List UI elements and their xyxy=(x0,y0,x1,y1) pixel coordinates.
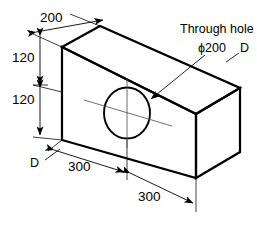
section-label-right-group: D xyxy=(226,41,249,62)
hole-centerline-axis xyxy=(84,100,172,126)
block-top-face xyxy=(62,26,240,114)
section-label-right: D xyxy=(240,41,249,55)
through-hole-note: Through hole xyxy=(180,22,254,36)
block-right-face xyxy=(196,88,240,178)
dimension-120-upper-label: 120 xyxy=(12,50,35,65)
isometric-block-drawing: 200 120 120 Through hole ϕ200 D xyxy=(0,0,257,226)
section-label-left-group: D xyxy=(30,149,60,170)
hole-diameter-label: ϕ200 xyxy=(198,41,226,55)
dimension-300-right: 300 xyxy=(130,173,193,204)
dimension-300-left-label: 300 xyxy=(68,159,91,174)
through-hole xyxy=(84,78,172,148)
dimension-200-label: 200 xyxy=(40,10,63,25)
section-label-left: D xyxy=(30,156,39,170)
dimension-120-lower-label: 120 xyxy=(12,92,35,107)
dimension-heights: 120 120 xyxy=(12,36,48,135)
dimension-300-right-label: 300 xyxy=(138,189,161,204)
extension-lines xyxy=(33,14,196,212)
